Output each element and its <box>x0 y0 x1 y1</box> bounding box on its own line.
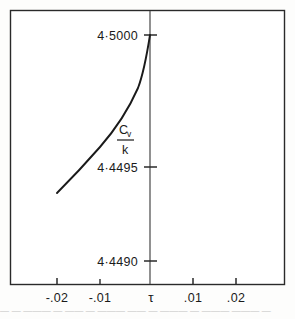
y-tick-label-bottom: 4·4490 <box>97 255 138 269</box>
x-tick-label-minus-01: -.01 <box>89 291 112 305</box>
x-tick-label-plus-01: .01 <box>184 291 202 305</box>
y-tick-label-top: 4·5000 <box>97 29 138 43</box>
axis-label-denominator: k <box>122 143 129 157</box>
figure-container: 4·5000 4·4495 4·4490 -.02 -.01 τ .01 .02… <box>0 0 295 319</box>
x-axis-label-tau: τ <box>148 290 154 305</box>
y-tick-label-mid: 4·4495 <box>97 161 138 175</box>
x-tick-label-plus-02: .02 <box>227 291 245 305</box>
page-caption-fragment: — — ——— — —— — ——— —— — ——— — ——— ——— — <box>0 305 295 319</box>
x-tick-label-minus-02: -.02 <box>46 291 69 305</box>
chart-canvas: 4·5000 4·4495 4·4490 -.02 -.01 τ .01 .02… <box>0 0 295 319</box>
